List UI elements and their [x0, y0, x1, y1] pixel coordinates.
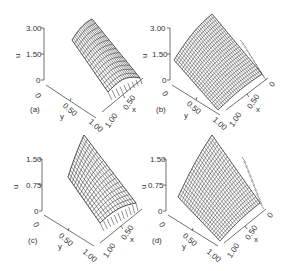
- x-axis-label: x: [132, 106, 136, 114]
- panel-b: 3.00 1.50 0 u 0 0.50 1.00 y 1.00 0.50 0 …: [140, 0, 283, 135]
- surface-plot-b: [140, 0, 287, 135]
- figure: 3.00 1.50 0 u 0 0.50 1.00 y 1.00 0.50 x …: [0, 0, 287, 271]
- z-tick-bottom: 0: [34, 208, 38, 216]
- panel-a: 3.00 1.50 0 u 0 0.50 1.00 y 1.00 0.50 x …: [0, 0, 143, 135]
- y-axis-label: y: [182, 243, 186, 251]
- x-axis-label: x: [256, 106, 260, 114]
- z-tick-top: 1.50: [26, 156, 42, 164]
- z-tick-mid: 1.50: [26, 51, 42, 59]
- z-tick-mid: 0.75: [148, 182, 164, 190]
- z-tick-mid: 1.50: [152, 51, 168, 59]
- x-axis-label: x: [130, 236, 134, 244]
- z-tick-bottom: 0: [158, 208, 162, 216]
- panel-label: (c): [28, 237, 37, 245]
- z-tick-top: 3.00: [150, 25, 166, 33]
- panel-d: 1.50 0.75 0 u 0 0.50 1.00 y 1.00 0.50 0 …: [140, 135, 283, 270]
- panel-c: 1.50 0.75 0 u 0 0.50 1.00 y 1.00 0.50 x …: [0, 135, 143, 270]
- z-axis-label: u: [12, 185, 20, 189]
- z-tick-top: 1.50: [150, 156, 166, 164]
- panel-label: (a): [30, 106, 40, 114]
- x-axis-label: x: [254, 236, 258, 244]
- z-tick-bottom: 0: [162, 77, 166, 85]
- y-axis-label: y: [184, 112, 188, 120]
- surface-plot-c: [0, 135, 143, 271]
- panel-label: (b): [156, 106, 166, 114]
- z-axis-label: u: [14, 54, 22, 58]
- z-axis-label: u: [140, 185, 148, 189]
- y-axis-label: y: [58, 243, 62, 251]
- y-axis-label: y: [60, 113, 64, 121]
- z-tick-mid: 0.75: [26, 182, 42, 190]
- z-tick-top: 3.00: [26, 25, 42, 33]
- panel-label: (d): [152, 237, 162, 245]
- z-axis-label: u: [141, 54, 149, 58]
- z-tick-bottom: 0: [36, 77, 40, 85]
